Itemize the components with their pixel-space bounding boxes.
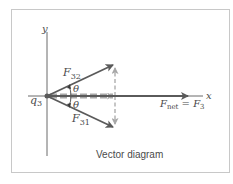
angle-theta-lower: θ: [73, 99, 79, 110]
vector-diagram: y x θ θ F32 F31 q3 Fnet = F3 Vector diag…: [0, 0, 233, 184]
charge-q3-dot: [45, 94, 50, 99]
caption: Vector diagram: [96, 149, 163, 160]
angle-theta-upper: θ: [73, 83, 79, 94]
x-axis-label: x: [206, 90, 212, 101]
y-axis-label: y: [41, 23, 48, 34]
